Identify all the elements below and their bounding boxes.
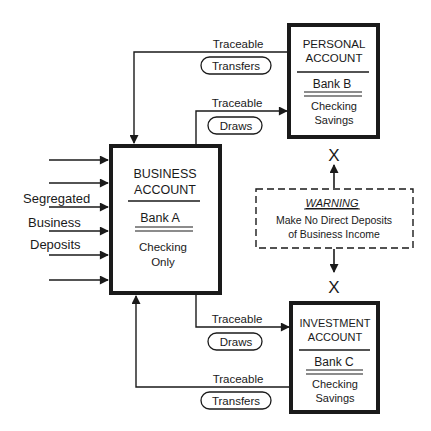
blocked-x-top: X	[328, 146, 339, 165]
investment-account-title-1: INVESTMENT	[300, 317, 371, 329]
personal-account-type-2: Savings	[314, 114, 354, 126]
investment-account-bank: Bank C	[314, 355, 354, 369]
investment-account-type-1: Checking	[312, 378, 358, 390]
deposits-label-line3: Deposits	[30, 237, 81, 252]
badge-text: Draws	[220, 120, 253, 132]
flow-investment-draws: Traceable Draws	[196, 295, 289, 350]
business-account-type-2: Only	[151, 256, 175, 268]
business-account-title-1: BUSINESS	[133, 167, 196, 181]
personal-account-type-1: Checking	[311, 100, 357, 112]
warning-line1: Make No Direct Deposits	[276, 214, 392, 226]
warning-box: WARNING Make No Direct Deposits of Busin…	[256, 189, 413, 248]
flow-label: Traceable	[212, 313, 263, 325]
badge-text: Transfers	[212, 60, 260, 72]
deposits-label-line1: Segregated	[23, 191, 90, 206]
investment-account-type-2: Savings	[315, 392, 355, 404]
investment-account-title-2: ACCOUNT	[308, 331, 363, 343]
deposits-label-line2: Business	[28, 215, 81, 230]
investment-account-box: INVESTMENT ACCOUNT Bank C Checking Savin…	[291, 303, 378, 412]
warning-line2: of Business Income	[288, 228, 380, 240]
flow-personal-draws: Traceable Draws	[196, 97, 287, 144]
business-account-title-2: ACCOUNT	[134, 183, 196, 197]
personal-account-bank: Bank B	[313, 77, 352, 91]
warning-title: WARNING	[306, 197, 359, 209]
business-account-bank: Bank A	[140, 211, 180, 225]
flow-label: Traceable	[212, 97, 263, 109]
personal-account-title-2: ACCOUNT	[306, 52, 363, 64]
personal-account-title-1: PERSONAL	[303, 38, 366, 50]
account-flow-diagram: Segregated Business Deposits BUSINESS AC…	[0, 0, 431, 431]
business-account-type-1: Checking	[139, 241, 187, 253]
badge-text: Draws	[220, 336, 253, 348]
flow-label: Traceable	[213, 38, 264, 50]
blocked-x-bottom: X	[328, 278, 339, 297]
business-account-box: BUSINESS ACCOUNT Bank A Checking Only	[111, 146, 220, 293]
personal-account-box: PERSONAL ACCOUNT Bank B Checking Savings	[289, 25, 378, 137]
flow-label: Traceable	[213, 373, 264, 385]
badge-text: Transfers	[212, 395, 260, 407]
